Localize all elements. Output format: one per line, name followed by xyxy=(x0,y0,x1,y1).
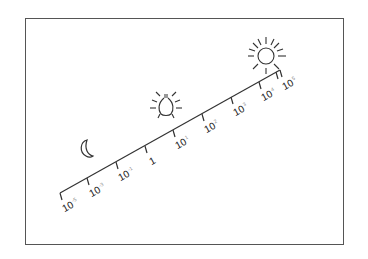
light-bulb-icon xyxy=(150,92,182,118)
sun-icon xyxy=(248,37,286,74)
scale-diagram xyxy=(0,0,368,259)
moon-icon xyxy=(81,140,93,157)
log-scale-axis xyxy=(60,70,282,200)
